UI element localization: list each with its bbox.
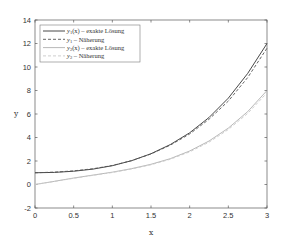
y-axis-label: y [13, 109, 19, 118]
y-tick-label: 8 [27, 86, 31, 95]
line-chart: -202468101214 00.511.522.53 x y y1(x) – … [0, 0, 283, 239]
x-tick-label: 0.5 [68, 211, 78, 220]
x-tick-label: 0 [33, 211, 37, 220]
x-tick-label: 2.5 [223, 211, 233, 220]
x-tick-label: 1 [110, 211, 114, 220]
y-tick-label: 12 [23, 39, 31, 48]
y-tick-label: 10 [23, 63, 31, 72]
legend-entry: y1 – Näherung [66, 36, 105, 44]
legend: y1(x) – exakte Lösungy1 – Näherungy2(x) … [40, 25, 140, 62]
y-tick-label: 0 [27, 180, 31, 189]
legend-entry: y2(x) – exakte Lösung [66, 44, 125, 52]
x-tick-label: 1.5 [146, 211, 156, 220]
y-tick-label: 2 [27, 157, 31, 166]
legend-entry: y1(x) – exakte Lösung [66, 27, 125, 35]
y-tick-label: 14 [23, 16, 31, 25]
x-axis-label: x [149, 228, 154, 237]
y-tick-label: 4 [27, 133, 31, 142]
legend-entry: y2 – Näherung [66, 52, 105, 60]
y-tick-label: 6 [27, 110, 31, 119]
y-tick-label: -2 [24, 204, 31, 213]
x-tick-label: 3 [265, 211, 269, 220]
x-tick-label: 2 [188, 211, 192, 220]
